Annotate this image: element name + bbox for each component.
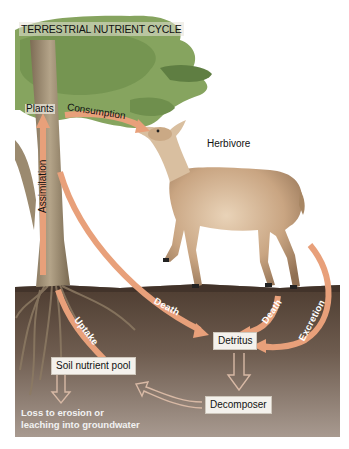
decomposer-node: Decomposer xyxy=(205,396,272,414)
diagram-title: TERRESTRIAL NUTRIENT CYCLE xyxy=(19,22,184,36)
nutrient-cycle-diagram: TERRESTRIAL NUTRIENT CYCLE Plants Herbiv… xyxy=(0,0,349,449)
diagram-illustration xyxy=(0,0,349,449)
loss-text-line2: leaching into groundwater xyxy=(21,419,140,431)
soil-nutrient-pool-node: Soil nutrient pool xyxy=(51,357,136,375)
assimilation-label: Assimilation xyxy=(38,160,48,213)
herbivore-label: Herbivore xyxy=(207,139,250,149)
loss-text-line1: Loss to erosion or xyxy=(21,407,140,419)
detritus-node: Detritus xyxy=(213,332,257,350)
loss-text: Loss to erosion or leaching into groundw… xyxy=(21,407,140,431)
plants-label: Plants xyxy=(25,104,55,114)
